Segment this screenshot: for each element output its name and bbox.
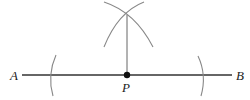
upper-arc-left-center [104, 2, 153, 47]
label-a: A [9, 68, 18, 83]
label-b: B [236, 68, 244, 83]
point-p [124, 72, 130, 78]
label-p: P [121, 80, 130, 95]
diagram-canvas: A B P [0, 0, 250, 100]
construction-diagram: A B P [0, 0, 250, 100]
right-arc [198, 56, 203, 96]
